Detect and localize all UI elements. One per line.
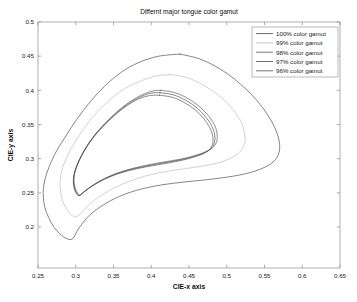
- y-tick-label: 0.4: [25, 87, 34, 94]
- y-tick-label: 0.35: [22, 121, 35, 128]
- legend-label-3: 97% color gamut: [276, 58, 323, 65]
- legend-label-4: 96% color gamut: [276, 67, 323, 74]
- y-tick-label: 0.2: [25, 223, 34, 230]
- x-tick-label: 0.45: [183, 272, 196, 279]
- gamut-curve-0: [43, 54, 279, 239]
- y-axis-title: CIE-y axis: [7, 129, 15, 162]
- x-tick-label: 0.35: [107, 272, 120, 279]
- x-axis-title: CIE-x axis: [173, 283, 206, 290]
- x-tick-label: 0.6: [298, 272, 307, 279]
- y-tick-label: 0.45: [22, 52, 35, 59]
- y-tick-label: 0.25: [22, 189, 35, 196]
- gamut-curve-4: [73, 95, 213, 196]
- figure-container: 0.250.30.350.40.450.50.550.60.650.20.250…: [0, 0, 357, 302]
- legend-label-0: 100% color gamut: [276, 30, 326, 37]
- y-tick-label: 0.5: [25, 18, 34, 25]
- x-tick-label: 0.5: [222, 272, 231, 279]
- x-tick-label: 0.25: [32, 272, 45, 279]
- x-tick-label: 0.55: [258, 272, 271, 279]
- x-tick-label: 0.4: [147, 272, 156, 279]
- legend-label-2: 98% color gamut: [276, 49, 323, 56]
- y-tick-label: 0.3: [25, 155, 34, 162]
- chart-title: Differnt major tongue color gamut: [140, 8, 238, 16]
- gamut-curve-2: [74, 90, 217, 195]
- gamut-curve-3: [74, 93, 215, 196]
- x-tick-label: 0.3: [71, 272, 80, 279]
- chart-canvas: 0.250.30.350.40.450.50.550.60.650.20.250…: [0, 0, 357, 302]
- legend-label-1: 99% color gamut: [276, 39, 323, 46]
- x-tick-label: 0.65: [334, 272, 347, 279]
